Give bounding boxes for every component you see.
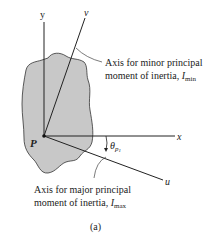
- angle-label: θp1: [110, 140, 121, 153]
- major-axis-annotation-line1: Axis for major principal: [34, 184, 131, 195]
- u-axis-label: u: [165, 176, 170, 187]
- angle-arrowhead: [104, 148, 108, 152]
- y-axis-label: y: [40, 9, 45, 20]
- angle-arc: [106, 136, 107, 150]
- origin-point: [42, 134, 46, 138]
- cross-section-shape: [22, 53, 93, 173]
- figure-caption: (a): [90, 221, 101, 233]
- x-axis-label: x: [176, 131, 182, 142]
- v-axis-label: v: [84, 7, 89, 18]
- principal-axes-diagram: y v x u P θp1 Axis for minor principal m…: [0, 0, 215, 236]
- major-axis-annotation-line2: moment of inertia, Imax: [34, 197, 127, 210]
- minor-axis-annotation-line1: Axis for minor principal: [105, 57, 203, 68]
- major-leader-line: [94, 157, 106, 178]
- minor-axis-annotation-line2: moment of inertia, Imin: [105, 70, 196, 83]
- origin-label: P: [30, 137, 37, 149]
